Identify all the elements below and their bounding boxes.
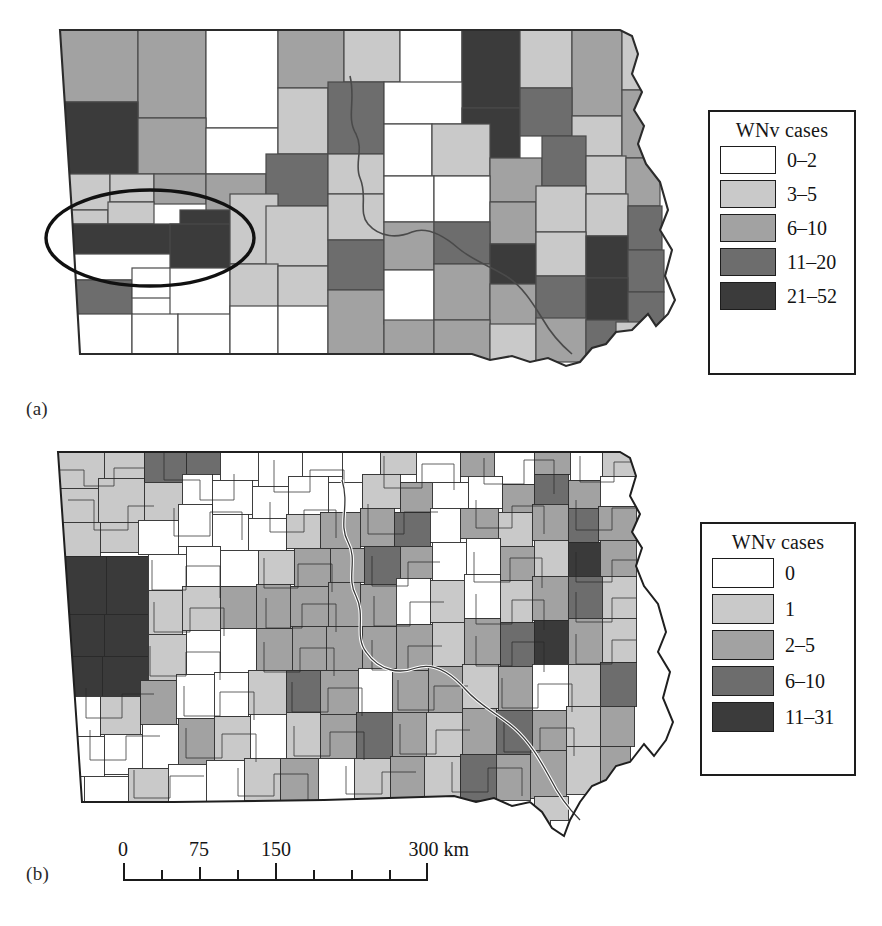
legend-b-item-4[interactable]: 11–31	[712, 702, 854, 732]
legend-a-rows: 0–2 3–5 6–10 11–20 21–52	[710, 146, 854, 310]
legend-swatch-icon	[712, 594, 774, 624]
legend-a-item-4[interactable]: 21–52	[720, 282, 854, 310]
legend-b-label-2: 2–5	[785, 635, 815, 655]
legend-a-title: WNv cases	[710, 112, 854, 146]
legend-b-item-2[interactable]: 2–5	[712, 630, 854, 660]
scale-baseline	[123, 879, 428, 881]
legend-swatch-icon	[720, 180, 776, 208]
map-b-svg	[24, 440, 696, 850]
legend-b-label-1: 1	[785, 599, 795, 619]
panel-label-b: (b)	[26, 863, 49, 885]
legend-swatch-icon	[720, 282, 776, 310]
legend-a-item-0[interactable]: 0–2	[720, 146, 854, 174]
legend-a-label-3: 11–20	[787, 252, 836, 272]
scale-bar: 0 75 150 300 km	[96, 838, 456, 900]
legend-a-item-2[interactable]: 6–10	[720, 214, 854, 242]
legend-a-item-3[interactable]: 11–20	[720, 248, 854, 276]
legend-b-item-3[interactable]: 6–10	[712, 666, 854, 696]
scale-label-0: 0	[118, 838, 128, 861]
legend-b-label-3: 6–10	[785, 671, 825, 691]
map-panel-b-zipcodes	[24, 440, 696, 850]
legend-a-item-1[interactable]: 3–5	[720, 180, 854, 208]
legend-swatch-icon	[712, 558, 774, 588]
legend-b-item-1[interactable]: 1	[712, 594, 854, 624]
legend-b-item-0[interactable]: 0	[712, 558, 854, 588]
legend-a-label-4: 21–52	[787, 286, 837, 306]
scale-label-150: 150	[261, 838, 291, 861]
panel-label-a: (a)	[26, 398, 48, 420]
legend-swatch-icon	[712, 666, 774, 696]
legend-swatch-icon	[720, 146, 776, 174]
zip-polygons	[24, 440, 696, 850]
legend-b-rows: 0 1 2–5 6–10 11–31	[702, 558, 854, 732]
legend-panel-b: WNv cases 0 1 2–5 6–10 11–31	[700, 522, 856, 776]
county-polygons	[60, 30, 664, 364]
legend-b-title: WNv cases	[702, 524, 854, 558]
map-a-svg	[20, 14, 692, 394]
legend-swatch-icon	[712, 702, 774, 732]
figure-container: WNv cases 0–2 3–5 6–10 11–20 21–52	[0, 0, 882, 926]
legend-a-label-0: 0–2	[787, 150, 817, 170]
legend-b-label-0: 0	[785, 563, 795, 583]
map-panel-a-counties	[20, 14, 692, 394]
legend-b-label-4: 11–31	[785, 707, 834, 727]
legend-swatch-icon	[712, 630, 774, 660]
legend-swatch-icon	[720, 248, 776, 276]
scale-label-300: 300 km	[409, 838, 470, 861]
legend-a-label-1: 3–5	[787, 184, 817, 204]
scale-label-75: 75	[189, 838, 209, 861]
legend-a-label-2: 6–10	[787, 218, 827, 238]
legend-swatch-icon	[720, 214, 776, 242]
legend-panel-a: WNv cases 0–2 3–5 6–10 11–20 21–52	[708, 110, 856, 375]
